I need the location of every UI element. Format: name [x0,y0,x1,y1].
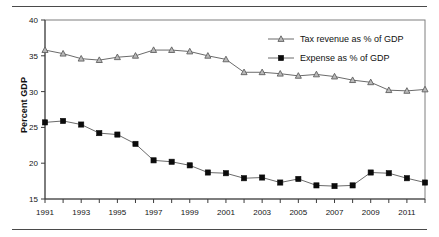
data-point-1-1998 [169,159,174,164]
x-tick-label-2011: 2011 [398,208,416,217]
x-tick-label-2009: 2009 [362,208,380,217]
data-point-1-1991 [42,120,47,125]
legend-marker-square [278,55,283,60]
data-point-1-1992 [60,118,65,123]
y-tick-label-40: 40 [29,16,38,25]
data-point-0-1991 [42,47,48,53]
data-point-1-1994 [97,131,102,136]
y-tick-label-35: 35 [29,52,38,61]
data-point-1-1997 [151,158,156,163]
data-point-1-2008 [350,183,355,188]
data-point-1-2012 [422,180,427,185]
x-tick-label-2003: 2003 [253,208,271,217]
data-point-1-2004 [278,180,283,185]
data-point-1-1993 [79,122,84,127]
y-tick-label-30: 30 [29,88,38,97]
data-point-1-2006 [314,183,319,188]
line-chart-plot: 1520253035401991199319951997199920012003… [0,0,439,237]
data-point-1-1996 [133,141,138,146]
data-point-1-2005 [296,176,301,181]
data-point-0-2012 [422,86,428,92]
data-point-0-2006 [313,71,319,77]
x-tick-label-1997: 1997 [145,208,163,217]
chart-figure: Percent GDP 1520253035401991199319951997… [0,0,439,237]
data-point-1-2007 [332,184,337,189]
data-point-1-2001 [223,171,228,176]
data-point-1-2011 [404,176,409,181]
x-tick-label-1993: 1993 [72,208,90,217]
data-point-1-2010 [386,171,391,176]
data-point-1-2003 [260,175,265,180]
legend-label-0: Tax revenue as % of GDP [300,34,404,44]
x-tick-label-2007: 2007 [326,208,344,217]
x-tick-label-1999: 1999 [181,208,199,217]
y-tick-label-15: 15 [29,195,38,204]
y-tick-label-25: 25 [29,123,38,132]
x-tick-label-2005: 2005 [289,208,307,217]
x-tick-label-1995: 1995 [108,208,126,217]
data-point-1-1995 [115,132,120,137]
y-tick-label-20: 20 [29,159,38,168]
x-tick-label-2001: 2001 [217,208,235,217]
data-point-1-2000 [205,170,210,175]
data-point-1-2009 [368,170,373,175]
data-point-1-2002 [241,176,246,181]
x-tick-label-1991: 1991 [36,208,54,217]
data-point-1-1999 [187,163,192,168]
legend-label-1: Expense as % of GDP [300,53,390,63]
